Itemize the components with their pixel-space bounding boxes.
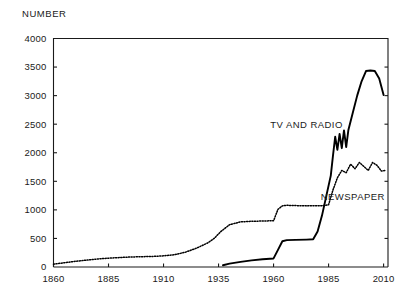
y-tick-label: 0	[41, 261, 46, 272]
x-axis-tick-labels: 1860188519101935196019852010	[43, 273, 395, 284]
x-tick-label: 1985	[318, 273, 340, 284]
y-tick-label: 3500	[25, 61, 47, 72]
x-tick-label: 2010	[373, 273, 395, 284]
x-tick-label: 1860	[43, 273, 65, 284]
y-axis-title: NUMBER	[22, 8, 66, 19]
x-tick-label: 1885	[98, 273, 120, 284]
y-tick-label: 3000	[25, 90, 47, 101]
y-tick-label: 1500	[25, 176, 47, 187]
x-tick-label: 1910	[153, 273, 175, 284]
x-tick-label: 1960	[263, 273, 285, 284]
y-tick-label: 2000	[25, 147, 47, 158]
line-chart: NUMBER 05001000150020002500300035004000 …	[0, 0, 408, 303]
series-line-tv-and-radio	[223, 70, 384, 265]
y-axis-tick-marks	[54, 67, 389, 238]
y-tick-label: 4000	[25, 33, 47, 44]
series-line-newspaper	[54, 162, 386, 264]
plot-frame	[54, 39, 389, 268]
series-annotation-tv-and-radio: TV AND RADIO	[270, 119, 342, 130]
series-annotation-newspaper: NEWSPAPER	[321, 191, 385, 202]
chart-container: NUMBER 05001000150020002500300035004000 …	[0, 0, 408, 303]
y-tick-label: 2500	[25, 119, 47, 130]
x-tick-label: 1935	[208, 273, 230, 284]
y-tick-label: 500	[30, 233, 46, 244]
y-tick-label: 1000	[25, 204, 47, 215]
y-axis-tick-labels: 05001000150020002500300035004000	[25, 33, 47, 273]
